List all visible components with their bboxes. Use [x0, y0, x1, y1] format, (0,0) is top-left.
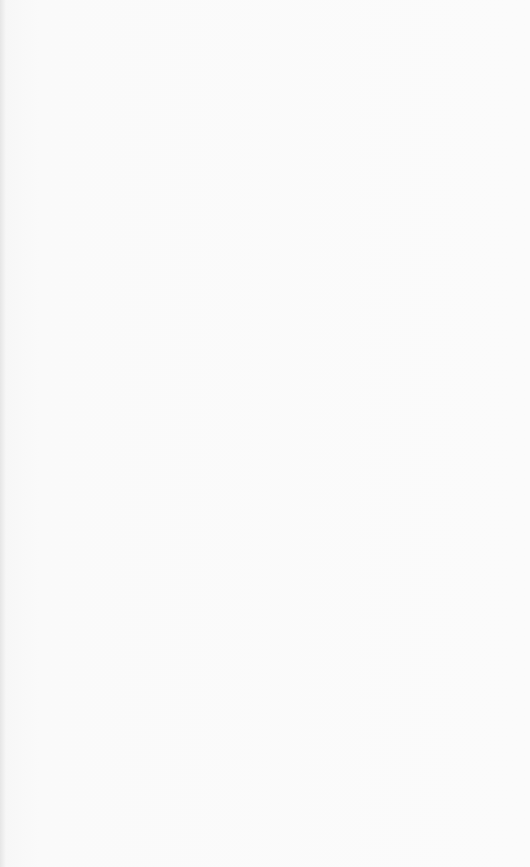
lined-paper	[0, 0, 530, 867]
